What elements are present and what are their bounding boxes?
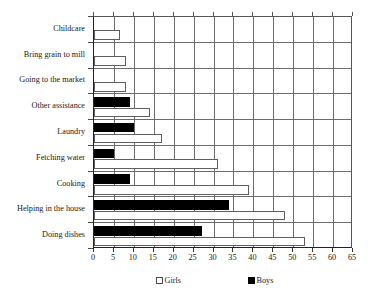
x-axis-tick-10 xyxy=(133,248,134,252)
x-axis-tick-top-45 xyxy=(272,12,273,16)
x-axis-label-15: 15 xyxy=(143,253,163,262)
x-axis-tick-top-25 xyxy=(193,12,194,16)
x-axis-label-10: 10 xyxy=(123,253,143,262)
legend-item-girls[interactable]: Girls xyxy=(156,276,181,285)
y-axis-label-cooking: Cooking xyxy=(57,179,85,188)
category-row xyxy=(94,197,351,223)
x-axis-tick-top-0 xyxy=(93,12,94,16)
x-axis-tick-top-5 xyxy=(113,12,114,16)
x-axis-tick-40 xyxy=(252,248,253,252)
x-axis-label-25: 25 xyxy=(183,253,203,262)
filled-square-icon xyxy=(248,277,255,284)
x-axis-label-0: 0 xyxy=(83,253,103,262)
x-axis-tick-0 xyxy=(93,248,94,252)
y-axis-label-laundry: Laundry xyxy=(57,127,85,136)
x-axis-tick-60 xyxy=(332,248,333,252)
bar-boys xyxy=(94,97,130,107)
x-axis-tick-50 xyxy=(292,248,293,252)
x-axis-label-55: 55 xyxy=(302,253,322,262)
category-row xyxy=(94,172,351,198)
y-axis-label-childcare: Childcare xyxy=(53,24,85,33)
x-axis-tick-55 xyxy=(312,248,313,252)
bar-girls xyxy=(94,56,126,66)
category-row xyxy=(94,146,351,172)
bar-boys xyxy=(94,149,114,159)
bar-boys xyxy=(94,226,202,236)
x-axis-label-50: 50 xyxy=(282,253,302,262)
hollow-square-icon xyxy=(156,277,163,284)
y-axis-tick xyxy=(88,145,93,146)
category-row xyxy=(94,17,351,43)
y-axis-label-bring-grain-to-mill: Bring grain to mill xyxy=(24,50,85,59)
x-axis-tick-45 xyxy=(272,248,273,252)
y-axis-label-helping-in-the-house: Helping in the house xyxy=(17,204,85,213)
x-axis-tick-top-50 xyxy=(292,12,293,16)
bar-boys xyxy=(94,123,134,133)
y-axis-tick xyxy=(88,93,93,94)
y-axis-label-doing-dishes: Doing dishes xyxy=(42,230,85,239)
y-axis-category-labels: ChildcareBring grain to millGoing to the… xyxy=(0,16,90,248)
y-axis-tick xyxy=(88,171,93,172)
x-axis-tick-top-60 xyxy=(332,12,333,16)
x-axis-label-5: 5 xyxy=(103,253,123,262)
x-axis-label-65: 65 xyxy=(342,253,362,262)
x-axis-label-35: 35 xyxy=(222,253,242,262)
bar-girls xyxy=(94,237,305,247)
x-axis-tick-top-10 xyxy=(133,12,134,16)
x-axis-label-40: 40 xyxy=(242,253,262,262)
x-axis-tick-25 xyxy=(193,248,194,252)
x-axis-label-20: 20 xyxy=(163,253,183,262)
category-row xyxy=(94,223,351,249)
x-axis-tick-top-15 xyxy=(153,12,154,16)
bar-girls xyxy=(94,185,249,195)
y-axis-tick xyxy=(88,196,93,197)
x-axis-tick-15 xyxy=(153,248,154,252)
x-axis-tick-65 xyxy=(352,248,353,252)
x-axis-tick-top-40 xyxy=(252,12,253,16)
horizontal-bar-chart: ChildcareBring grain to millGoing to the… xyxy=(0,0,373,298)
category-row xyxy=(94,94,351,120)
x-axis-label-30: 30 xyxy=(203,253,223,262)
y-axis-label-fetching-water: Fetching water xyxy=(36,153,85,162)
x-axis-tick-top-35 xyxy=(232,12,233,16)
x-axis-tick-20 xyxy=(173,248,174,252)
x-axis-tick-35 xyxy=(232,248,233,252)
bar-girls xyxy=(94,82,126,92)
category-row xyxy=(94,43,351,69)
y-axis-tick xyxy=(88,222,93,223)
plot-area xyxy=(93,16,352,248)
bar-girls xyxy=(94,211,285,221)
y-axis-label-going-to-the-market: Going to the market xyxy=(19,75,85,84)
bar-girls xyxy=(94,159,218,169)
bar-girls xyxy=(94,108,150,118)
y-axis-tick xyxy=(88,119,93,120)
x-axis-label-60: 60 xyxy=(322,253,342,262)
y-axis-tick xyxy=(88,16,93,17)
x-axis-tick-top-65 xyxy=(352,12,353,16)
x-axis-tick-top-30 xyxy=(213,12,214,16)
bar-girls xyxy=(94,134,162,144)
x-axis-label-45: 45 xyxy=(262,253,282,262)
x-axis-tick-30 xyxy=(213,248,214,252)
legend-label: Boys xyxy=(257,276,274,285)
bar-boys xyxy=(94,174,130,184)
chart-legend: GirlsBoys xyxy=(0,276,373,292)
x-axis-tick-5 xyxy=(113,248,114,252)
category-row xyxy=(94,120,351,146)
category-row xyxy=(94,69,351,95)
bar-boys xyxy=(94,200,229,210)
legend-label: Girls xyxy=(165,276,181,285)
y-axis-tick xyxy=(88,42,93,43)
y-axis-label-other-assistance: Other assistance xyxy=(32,101,85,110)
y-axis-tick xyxy=(88,68,93,69)
x-axis-tick-top-55 xyxy=(312,12,313,16)
bar-girls xyxy=(94,30,120,40)
legend-item-boys[interactable]: Boys xyxy=(248,276,273,285)
x-axis-tick-top-20 xyxy=(173,12,174,16)
